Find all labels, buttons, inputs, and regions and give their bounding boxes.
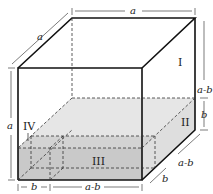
region-iii-face [18,148,142,180]
label-top-a: a [130,5,136,16]
label-depth-amb: a-b [178,157,194,168]
region-label-i: I [178,56,182,69]
label-right-amb: a-b [197,84,213,95]
label-right-b: b [201,109,207,120]
label-bottom-amb: a-b [85,181,101,192]
label-depth-b: b [162,173,168,184]
region-label-iv: IV [23,120,36,133]
region-label-iii: III [92,155,105,168]
region-label-ii: II [181,116,190,129]
region-iii-top [18,136,155,148]
label-depth-a: a [37,31,43,42]
cube-diagram: a a a a-b b a-b b b a-b I II III IV [0,0,213,194]
label-bottom-b: b [31,181,37,192]
label-height-a: a [7,120,13,131]
